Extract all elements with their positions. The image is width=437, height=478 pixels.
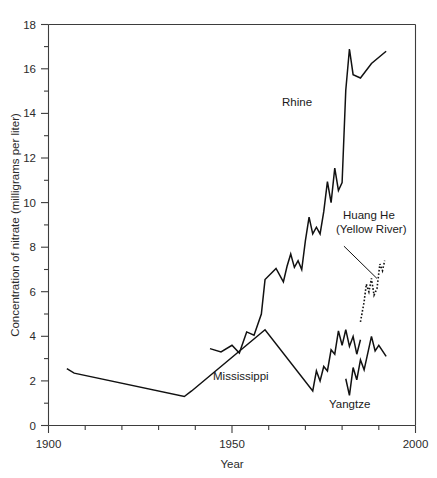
y-tick-label-8: 8 — [30, 241, 36, 253]
series-label-rhine: Rhine — [282, 96, 312, 108]
chart-svg: 0 2 4 6 8 10 12 14 16 18 1900 — [0, 0, 437, 478]
series-line-mississippi — [67, 330, 361, 397]
x-tick-label-2000: 2000 — [403, 438, 429, 450]
y-tick-label-18: 18 — [23, 19, 36, 31]
y-axis-title: Concentration of nitrate (milligrams per… — [9, 113, 21, 337]
x-tick-label-1950: 1950 — [219, 438, 245, 450]
nitrate-concentration-chart: 0 2 4 6 8 10 12 14 16 18 1900 — [0, 0, 437, 478]
x-axis-ticks — [49, 426, 416, 434]
huang-he-leader-line — [344, 246, 377, 278]
series-line-huang-he — [360, 261, 384, 322]
y-tick-label-0: 0 — [30, 420, 36, 432]
y-tick-label-10: 10 — [23, 197, 36, 209]
series-annotations: Rhine Mississippi Yangtze Huang He (Yell… — [213, 96, 407, 410]
series-line-rhine — [210, 49, 386, 353]
y-tick-label-12: 12 — [23, 152, 36, 164]
y-tick-label-4: 4 — [30, 330, 37, 342]
series-label-huang-he-line2: (Yellow River) — [336, 223, 407, 235]
y-tick-label-14: 14 — [23, 107, 36, 119]
y-tick-label-2: 2 — [30, 375, 36, 387]
x-axis-tick-labels: 1900 1950 2000 — [36, 438, 429, 450]
y-tick-label-16: 16 — [23, 63, 36, 75]
series-line-yangtze — [346, 336, 386, 395]
y-axis-minor-ticks — [44, 47, 49, 404]
series-label-yangtze: Yangtze — [329, 398, 370, 410]
x-tick-label-1900: 1900 — [36, 438, 62, 450]
x-axis-title: Year — [220, 458, 243, 470]
series-label-mississippi: Mississippi — [213, 370, 269, 382]
y-tick-label-6: 6 — [30, 286, 36, 298]
series-label-huang-he-line1: Huang He — [343, 209, 395, 221]
y-axis-tick-labels: 0 2 4 6 8 10 12 14 16 18 — [23, 19, 36, 432]
